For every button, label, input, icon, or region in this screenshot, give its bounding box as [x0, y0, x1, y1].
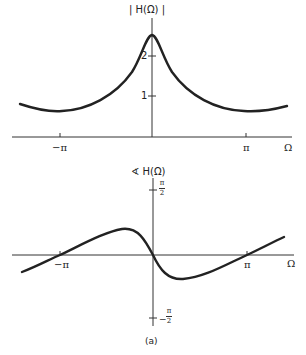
xtick-pi-label: π [244, 260, 251, 270]
ytick-neg-pi-over-2-label: π 2 [166, 308, 172, 325]
xtick-pi-label: π [243, 143, 250, 153]
xtick-neg-pi-label: −π [52, 143, 67, 153]
ytick-1-label: 1 [141, 91, 147, 101]
phase-title: ∢ H(Ω) [131, 167, 166, 177]
numerator: π [160, 179, 165, 187]
x-axis-label: Ω [284, 143, 292, 153]
figure: | H(Ω) | 2 1 −π π Ω ∢ H(Ω) π 2 − π 2 −π … [0, 0, 306, 355]
plot-canvas [0, 0, 306, 355]
caption: (a) [145, 336, 158, 346]
magnitude-title: | H(Ω) | [129, 5, 165, 15]
denominator: 2 [167, 317, 171, 325]
ytick-pi-over-2-label: π 2 [159, 180, 165, 197]
ytick-2-label: 2 [141, 51, 147, 61]
numerator: π [167, 307, 172, 315]
magnitude-curve [20, 35, 287, 111]
denominator: 2 [160, 189, 164, 197]
x-axis-label: Ω [287, 259, 295, 269]
xtick-neg-pi-label: −π [54, 260, 69, 270]
